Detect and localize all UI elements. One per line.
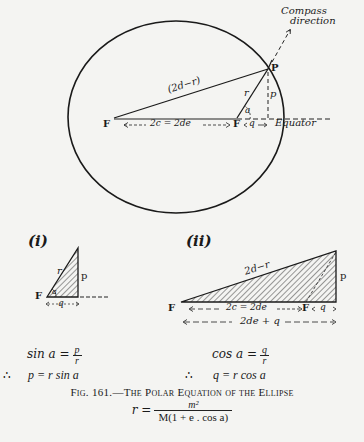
q-formula: q = r cos a	[213, 368, 266, 383]
sin-lhs: sin a =	[27, 347, 70, 361]
focus-left-label: F	[103, 118, 110, 129]
equation-numerator: m²	[154, 399, 232, 411]
focus-right-label: F	[233, 118, 240, 129]
diagram-ii-opp: p	[340, 270, 346, 281]
focal-distance-label: 2c = 2de	[150, 118, 191, 128]
angle-label: a	[245, 105, 250, 115]
figure-title: The Polar Equation of the Ellipse	[124, 386, 294, 398]
diagram-i-hyp: r	[57, 265, 62, 276]
cos-lhs: cos a =	[212, 347, 257, 361]
equator-label: Equator	[275, 117, 316, 128]
therefore-right: ∴	[185, 368, 193, 383]
point-p-label: P	[271, 62, 279, 73]
line-r	[237, 69, 268, 118]
diagram-ii-label: (ii)	[186, 232, 212, 250]
q-label: q	[249, 118, 255, 128]
diagram-i-label: (i)	[28, 232, 48, 250]
diagram-ii-base: 2de + q	[240, 315, 280, 326]
diagram-ii-focus-left: F	[168, 302, 175, 313]
sin-den: r	[73, 356, 82, 366]
compass-arrow	[272, 30, 290, 62]
p-formula: p = r sin a	[28, 368, 79, 383]
sin-formula: sin a = p r	[27, 345, 82, 366]
therefore-left: ∴	[3, 368, 11, 383]
diagram-ii-focus-right: F	[302, 302, 309, 313]
diagram-ii-q: q	[320, 302, 326, 312]
ellipse-orbit	[68, 21, 284, 213]
cos-den: r	[260, 356, 269, 366]
cos-formula: cos a = q r	[212, 345, 269, 366]
equation-fraction: m² M(1 + e . cos a)	[154, 399, 232, 423]
diagram-i-adj: q	[58, 298, 64, 308]
polar-equation: r = m² M(1 + e . cos a)	[0, 399, 364, 423]
figure-number: Fig. 161.	[70, 386, 112, 398]
diagram-ii-focal-distance: 2c = 2de	[226, 302, 267, 312]
perpendicular-label: p	[270, 88, 276, 99]
radius-label: r	[244, 87, 249, 98]
compass-label: Compass direction	[281, 6, 336, 26]
figure-caption: Fig. 161.—The Polar Equation of the Elli…	[0, 386, 364, 398]
diagram-i-angle: a	[52, 287, 57, 296]
equation-denominator: M(1 + e . cos a)	[154, 411, 232, 423]
diagram-i-focus: F	[35, 290, 42, 301]
triangle-ii	[181, 251, 336, 302]
equation-lhs: r =	[132, 403, 152, 417]
cos-fraction: q r	[260, 345, 269, 366]
sin-fraction: p r	[73, 345, 82, 366]
diagram-i-opp: p	[81, 270, 87, 281]
compass-label-line2: direction	[281, 16, 336, 26]
